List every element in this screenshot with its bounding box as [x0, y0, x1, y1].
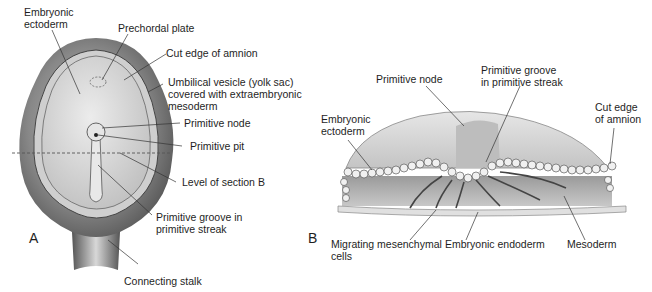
label-primitive-pit: Primitive pit — [190, 140, 244, 152]
label-migrating-mesenchymal-cells: Migrating mesenchymal cells — [331, 238, 442, 262]
panel-label-a: A — [29, 230, 38, 246]
label-prechordal-plate: Prechordal plate — [118, 22, 194, 34]
label-cut-edge-amnion-a: Cut edge of amnion — [166, 47, 258, 59]
label-umbilical-vesicle: Umbilical vesicle (yolk sac) covered wit… — [168, 76, 302, 112]
label-level-section-b: Level of section B — [182, 176, 265, 188]
label-connecting-stalk: Connecting stalk — [124, 275, 202, 287]
primitive-node-shape — [87, 123, 105, 141]
panel-label-b: B — [308, 230, 317, 246]
label-mesoderm: Mesoderm — [567, 238, 617, 250]
panel-b-drawing — [338, 86, 626, 240]
label-primitive-groove-a: Primitive groove in primitive streak — [156, 211, 242, 235]
primitive-node-ridge — [456, 120, 500, 168]
label-primitive-groove-b: Primitive groove in primitive streak — [481, 64, 563, 88]
label-cut-edge-amnion-b: Cut edge of amnion — [595, 101, 641, 125]
label-primitive-node-a: Primitive node — [184, 117, 251, 129]
label-embryonic-ectoderm-a: Embryonic ectoderm — [24, 6, 74, 30]
label-embryonic-ectoderm-b: Embryonic ectoderm — [321, 113, 371, 137]
diagram-canvas — [0, 0, 652, 292]
endoderm-layer — [338, 206, 626, 216]
label-embryonic-endoderm: Embryonic endoderm — [445, 238, 545, 250]
primitive-pit-shape — [94, 133, 98, 137]
label-primitive-node-b: Primitive node — [376, 73, 443, 85]
primitive-streak-shape — [90, 136, 103, 202]
